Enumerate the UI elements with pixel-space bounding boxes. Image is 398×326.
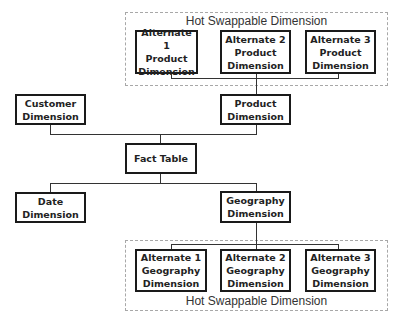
geography-dimension: Geography Dimension — [220, 191, 291, 223]
alt1-geography-dimension: Alternate 1 Geography Dimension — [135, 249, 207, 292]
alt3-product-dimension: Alternate 3 Product Dimension — [305, 30, 376, 74]
connector — [50, 183, 51, 192]
connector — [171, 244, 339, 245]
date-dimension: Date Dimension — [15, 192, 86, 223]
connector — [50, 134, 257, 135]
alt1-product-dimension: Alternate 1 Product Dimension — [135, 30, 198, 74]
alt2-geography-dimension: Alternate 2 Geography Dimension — [220, 249, 291, 292]
customer-dimension: Customer Dimension — [15, 94, 86, 125]
product-dimension: Product Dimension — [220, 94, 291, 125]
connector — [50, 183, 257, 184]
connector — [171, 78, 339, 79]
connector — [256, 74, 257, 94]
connector — [256, 223, 257, 249]
fact-table: Fact Table — [125, 143, 197, 174]
alt2-product-dimension: Alternate 2 Product Dimension — [220, 30, 291, 74]
bottom-group-label: Hot Swappable Dimension — [126, 294, 387, 308]
alt3-geography-dimension: Alternate 3 Geography Dimension — [305, 249, 376, 292]
connector — [160, 134, 161, 143]
